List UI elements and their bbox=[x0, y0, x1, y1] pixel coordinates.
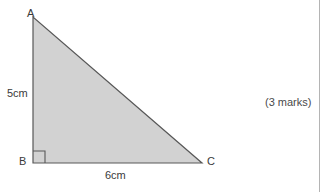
vertex-label-c: C bbox=[207, 156, 215, 167]
page-divider-line bbox=[319, 0, 320, 192]
marks-annotation: (3 marks) bbox=[265, 96, 311, 108]
side-length-label-bc: 6cm bbox=[105, 170, 126, 181]
question-figure-page: A B C 5cm 6cm (3 marks) bbox=[0, 0, 328, 192]
side-length-label-ab: 5cm bbox=[7, 88, 28, 99]
vertex-label-b: B bbox=[19, 156, 26, 167]
vertex-label-a: A bbox=[27, 8, 34, 19]
triangle-shape bbox=[33, 17, 202, 163]
